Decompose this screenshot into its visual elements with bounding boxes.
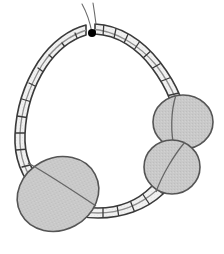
- figure-root: Segmented loop structure with three lobe…: [0, 0, 224, 254]
- lower-right-lobe: [144, 140, 200, 194]
- anatomical-line-diagram: Segmented loop structure with three lobe…: [0, 0, 224, 254]
- apex-junction-node: [88, 29, 96, 37]
